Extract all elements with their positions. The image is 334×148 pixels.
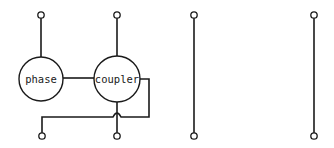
coupler-node: coupler (94, 56, 140, 102)
terminal-3-bottom (191, 133, 197, 139)
terminal-4-top (311, 12, 317, 18)
terminal-2-bottom (114, 133, 120, 139)
circuit-diagram: phase coupler (0, 0, 334, 148)
terminal-1-top (38, 12, 44, 18)
phase-node: phase (19, 57, 63, 101)
terminal-2-top (114, 12, 120, 18)
coupler-label: coupler (95, 73, 139, 85)
phase-label: phase (25, 73, 57, 85)
terminal-4-bottom (311, 133, 317, 139)
terminal-1-bottom (39, 133, 45, 139)
terminal-3-top (191, 12, 197, 18)
